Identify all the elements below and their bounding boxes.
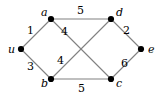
edge-weight-u-a: 1 <box>27 25 34 36</box>
edge-weight-u-b: 3 <box>27 61 34 72</box>
graph-vertex-b <box>48 76 54 82</box>
graph-vertex-a <box>48 16 54 22</box>
graph-vertex-c <box>108 76 114 82</box>
edge-weight-a-d: 5 <box>77 5 84 16</box>
graph-edge-u-a <box>21 19 51 49</box>
vertex-label-a: a <box>41 7 48 18</box>
graph-vertex-u <box>18 46 24 52</box>
edge-weight-b-d: 4 <box>57 55 64 66</box>
graph-edge-u-b <box>21 49 51 79</box>
graph-vertex-d <box>108 16 114 22</box>
graph-figure: 13544526uabdce <box>0 0 163 98</box>
edge-weight-a-c: 4 <box>61 26 68 37</box>
edge-weight-c-e: 6 <box>121 58 128 69</box>
edge-weight-b-c: 5 <box>78 83 85 94</box>
edge-weight-d-e: 2 <box>123 25 130 36</box>
vertex-label-b: b <box>41 78 48 89</box>
graph-vertex-e <box>138 46 144 52</box>
vertex-label-u: u <box>8 44 15 55</box>
vertex-label-d: d <box>116 7 123 18</box>
vertex-label-e: e <box>148 44 155 55</box>
vertex-label-c: c <box>116 78 122 89</box>
